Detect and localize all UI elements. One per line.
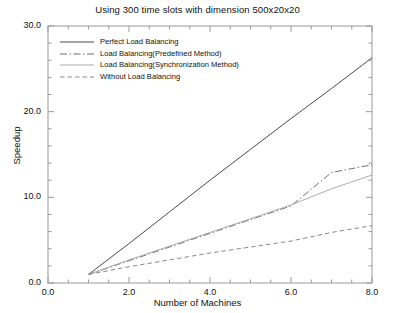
chart-title: Using 300 time slots with dimension 500x… (0, 4, 395, 15)
legend-line-sample (60, 41, 94, 43)
x-axis-label: Number of Machines (0, 297, 395, 308)
legend-line-sample (60, 53, 94, 55)
y-tick-label: 30.0 (7, 20, 41, 30)
series-line-1 (89, 165, 373, 275)
legend-label: Load Balancing(Predefined Method) (100, 48, 222, 60)
y-tick-label: 0.0 (7, 277, 41, 287)
series-line-2 (89, 175, 373, 274)
x-tick-label: 2.0 (109, 287, 149, 297)
legend-label: Without Load Balancing (100, 71, 180, 83)
legend-line-sample (60, 76, 94, 78)
x-tick-label: 4.0 (190, 287, 230, 297)
series-line-3 (89, 226, 373, 275)
legend-label: Load Balancing(Synchronization Method) (100, 59, 239, 71)
series-line-0 (89, 58, 373, 275)
x-tick-label: 6.0 (271, 287, 311, 297)
legend-label: Perfect Load Balancing (100, 36, 179, 48)
x-tick-label: 0.0 (28, 287, 68, 297)
legend-line-sample (60, 64, 94, 66)
y-axis-label: Speedup (11, 106, 22, 186)
speedup-line-chart: Using 300 time slots with dimension 500x… (0, 0, 395, 313)
y-tick-label: 10.0 (7, 191, 41, 201)
x-tick-label: 8.0 (352, 287, 392, 297)
y-tick-label: 20.0 (7, 106, 41, 116)
